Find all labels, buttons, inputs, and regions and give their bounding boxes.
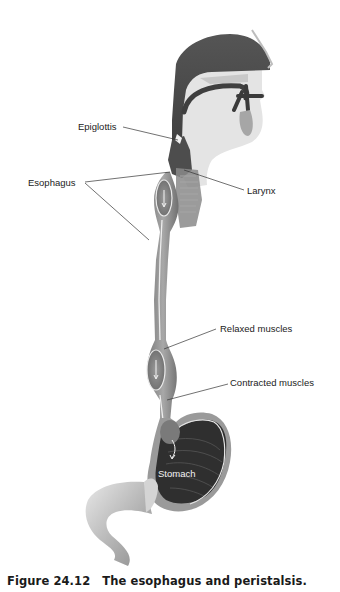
relaxed-muscles-leader — [164, 329, 216, 349]
head-cross-section — [168, 30, 272, 228]
esophagus-peristalsis-figure: Epiglottis Esophagus Larynx Relaxed musc… — [0, 0, 340, 592]
label-larynx: Larynx — [247, 186, 276, 196]
contracted-muscles-leader — [167, 384, 228, 400]
anatomy-illustration — [0, 0, 340, 592]
esophagus-leader-lower — [85, 183, 149, 240]
label-contracted-muscles: Contracted muscles — [230, 378, 314, 388]
esophagus-leader-upper — [85, 172, 170, 182]
stomach — [86, 412, 232, 566]
label-esophagus: Esophagus — [28, 178, 76, 188]
esophagus — [147, 172, 179, 422]
figure-caption: Figure 24.12The esophagus and peristalsi… — [7, 574, 307, 588]
label-stomach: Stomach — [158, 469, 196, 479]
label-epiglottis: Epiglottis — [78, 122, 117, 132]
figure-title: The esophagus and peristalsis. — [102, 574, 307, 588]
epiglottis-leader — [123, 127, 178, 140]
label-relaxed-muscles: Relaxed muscles — [220, 324, 292, 334]
figure-number: Figure 24.12 — [7, 574, 90, 588]
